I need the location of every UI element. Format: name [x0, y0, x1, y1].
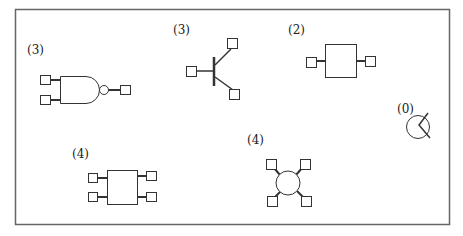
nand-body-icon	[61, 77, 100, 104]
four-terminal-block-label: (4)	[72, 147, 89, 161]
four-terminal-block-symbol: (4)	[72, 147, 157, 205]
terminal-less-circle-label: (0)	[397, 102, 414, 116]
terminal-icon	[89, 174, 98, 183]
circle-body-icon	[276, 171, 300, 195]
transistor-symbol: (3)	[173, 23, 240, 100]
nand-gate-symbol: (3)	[27, 43, 131, 105]
terminal-icon	[268, 197, 278, 207]
terminal-icon	[41, 76, 51, 85]
transistor-label: (3)	[173, 23, 190, 37]
circle-body-icon	[407, 116, 430, 139]
terminal-icon	[307, 58, 317, 68]
four-terminal-circle-label: (4)	[247, 133, 264, 147]
terminal-icon	[121, 86, 131, 95]
terminal-icon	[267, 160, 277, 170]
diagram-canvas: (3) (3) (2) (0) (4)	[0, 0, 463, 236]
terminal-icon	[41, 96, 51, 105]
block-body-icon	[326, 45, 357, 78]
terminal-icon	[230, 90, 240, 100]
terminal-icon	[228, 39, 238, 49]
two-terminal-block-symbol: (2)	[288, 23, 376, 78]
terminal-less-circle-symbol: (0)	[397, 102, 430, 139]
terminal-icon	[147, 193, 157, 202]
nand-gate-label: (3)	[27, 43, 44, 57]
terminal-icon	[147, 172, 157, 181]
terminal-icon	[301, 160, 311, 170]
terminal-icon	[89, 193, 98, 202]
block-body-icon	[108, 171, 138, 205]
terminal-icon	[366, 57, 376, 67]
terminal-icon	[187, 67, 197, 77]
two-terminal-block-label: (2)	[288, 23, 305, 37]
four-terminal-circle-symbol: (4)	[247, 133, 312, 207]
inverter-bubble-icon	[100, 86, 109, 95]
terminal-icon	[302, 197, 312, 207]
